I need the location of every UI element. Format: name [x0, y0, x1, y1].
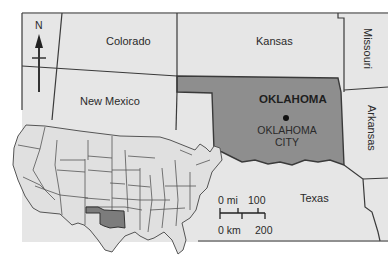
label-arkansas: Arkansas [366, 105, 377, 151]
capital-line-1: OKLAHOMA [256, 124, 318, 136]
label-missouri: Missouri [362, 28, 373, 69]
map-graphic [0, 0, 390, 263]
label-oklahoma: OKLAHOMA [259, 94, 327, 106]
scale-mi-end: 100 [248, 195, 266, 206]
scale-mi-start: 0 mi [218, 195, 238, 206]
scale-km-end: 200 [255, 225, 273, 236]
label-new-mexico: New Mexico [80, 96, 140, 107]
scale-km-start: 0 km [218, 225, 241, 236]
oklahoma-map: Colorado Kansas Missouri New Mexico OKLA… [0, 0, 390, 263]
north-label: N [35, 20, 43, 31]
label-kansas: Kansas [256, 36, 293, 47]
label-texas: Texas [300, 193, 329, 204]
label-capital: OKLAHOMA CITY [256, 124, 318, 148]
label-colorado: Colorado [106, 36, 151, 47]
capital-dot-icon [283, 115, 289, 121]
capital-line-2: CITY [256, 136, 318, 148]
